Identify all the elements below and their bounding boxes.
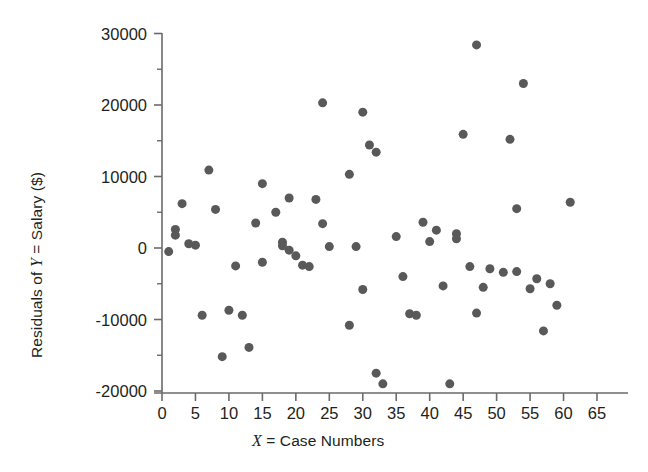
x-axis-variable-symbol: X [252, 432, 262, 449]
scatter-point [191, 241, 200, 250]
scatter-point [392, 232, 401, 241]
x-axis: 05101520253035404550556065 [154, 393, 628, 422]
scatter-point [445, 379, 454, 388]
x-tick-label: 0 [157, 404, 166, 422]
x-tick-label: 40 [421, 404, 439, 422]
scatter-point [305, 262, 314, 271]
x-tick-label: 55 [521, 404, 539, 422]
scatter-point [512, 267, 521, 276]
x-tick-label: 25 [320, 404, 338, 422]
x-tick-label: 10 [220, 404, 238, 422]
scatter-point [245, 343, 254, 352]
y-axis-title: Residuals of Y = Salary ($) [28, 172, 46, 358]
scatter-point [318, 219, 327, 228]
scatter-point [372, 148, 381, 157]
scatter-point [251, 218, 260, 227]
scatter-point [485, 264, 494, 273]
x-tick-label: 30 [354, 404, 372, 422]
scatter-point [452, 234, 461, 243]
scatter-point [472, 40, 481, 49]
scatter-point [439, 281, 448, 290]
scatter-point [358, 285, 367, 294]
y-tick-label: 30000 [101, 25, 147, 43]
scatter-point [479, 283, 488, 292]
data-points [164, 40, 575, 388]
x-tick-label: 5 [191, 404, 200, 422]
scatter-point [372, 369, 381, 378]
scatter-point [318, 98, 327, 107]
scatter-point [345, 321, 354, 330]
scatter-point [465, 262, 474, 271]
scatter-point [532, 274, 541, 283]
scatter-point [198, 311, 207, 320]
scatter-point [552, 301, 561, 310]
scatter-point [178, 199, 187, 208]
scatter-point [352, 242, 361, 251]
scatter-point [419, 218, 428, 227]
scatter-point [512, 204, 521, 213]
scatter-point [258, 258, 267, 267]
scatter-point [472, 309, 481, 318]
scatter-point [218, 352, 227, 361]
y-tick-label: 20000 [101, 96, 147, 114]
scatter-point [231, 261, 240, 270]
scatter-point [358, 108, 367, 117]
y-axis: -20000-100000100002000030000 [96, 25, 162, 401]
scatter-point [378, 379, 387, 388]
scatter-point [171, 231, 180, 240]
scatter-point [459, 130, 468, 139]
plot-canvas: -20000-100000100002000030000 05101520253… [0, 0, 648, 472]
y-tick-label: 10000 [101, 168, 147, 186]
scatter-point [224, 306, 233, 315]
scatter-point [211, 205, 220, 214]
scatter-point [566, 198, 575, 207]
scatter-point [291, 251, 300, 260]
scatter-point [285, 193, 294, 202]
scatter-point [365, 141, 374, 150]
x-tick-label: 20 [287, 404, 305, 422]
x-tick-label: 60 [554, 404, 572, 422]
y-tick-label: 0 [138, 239, 147, 257]
scatter-point [271, 208, 280, 217]
scatter-point [398, 272, 407, 281]
scatter-point [258, 179, 267, 188]
x-tick-label: 45 [454, 404, 472, 422]
scatter-point [425, 237, 434, 246]
scatter-point [204, 166, 213, 175]
scatter-point [519, 79, 528, 88]
scatter-plot-figure: -20000-100000100002000030000 05101520253… [0, 0, 648, 472]
scatter-point [539, 326, 548, 335]
x-tick-label: 15 [253, 404, 271, 422]
scatter-point [432, 226, 441, 235]
x-tick-label: 35 [387, 404, 405, 422]
scatter-point [325, 242, 334, 251]
y-axis-variable-symbol: Y [28, 258, 45, 267]
x-tick-label: 65 [588, 404, 606, 422]
scatter-point [238, 311, 247, 320]
y-tick-label: -10000 [96, 311, 147, 329]
x-tick-label: 50 [487, 404, 505, 422]
scatter-point [412, 311, 421, 320]
scatter-point [164, 247, 173, 256]
scatter-point [526, 284, 535, 293]
scatter-point [506, 135, 515, 144]
y-axis-title-prefix: Residuals of [28, 267, 45, 358]
scatter-point [546, 279, 555, 288]
y-axis-title-rest: = Salary ($) [28, 172, 45, 258]
x-axis-title-rest: = Case Numbers [262, 432, 385, 449]
scatter-point [345, 170, 354, 179]
scatter-point [311, 195, 320, 204]
y-tick-label: -20000 [96, 382, 147, 400]
scatter-point [499, 268, 508, 277]
x-axis-title: X = Case Numbers [252, 432, 384, 450]
